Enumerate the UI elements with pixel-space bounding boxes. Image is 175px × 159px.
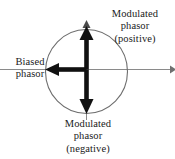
horizontal-axis-arrowhead-icon xyxy=(170,66,175,74)
label-modulated-negative-line3: (negative) xyxy=(52,143,124,155)
label-modulated-positive-line1: Modulated xyxy=(99,8,171,20)
label-biased-phasor-line2: phasor xyxy=(4,68,56,80)
label-modulated-phasor-negative: Modulated phasor (negative) xyxy=(52,118,124,155)
phasor-diagram-figure: Biased phasor Modulated phasor (positive… xyxy=(0,0,175,159)
label-biased-phasor: Biased phasor xyxy=(4,56,56,81)
phasor-arrowhead-down-icon xyxy=(80,99,94,114)
label-modulated-positive-line3: (positive) xyxy=(99,33,171,45)
phasor-arrowhead-up-icon xyxy=(80,26,94,40)
label-modulated-positive-line2: phasor xyxy=(99,20,171,32)
label-modulated-negative-line2: phasor xyxy=(52,130,124,142)
label-biased-phasor-line1: Biased xyxy=(4,56,56,68)
label-modulated-phasor-positive: Modulated phasor (positive) xyxy=(99,8,171,45)
label-modulated-negative-line1: Modulated xyxy=(52,118,124,130)
